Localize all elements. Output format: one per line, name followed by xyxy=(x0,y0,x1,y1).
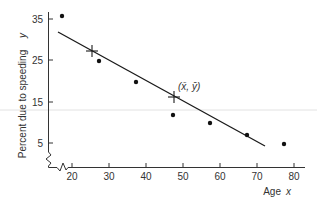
x-axis xyxy=(49,163,306,171)
regression-line xyxy=(58,32,265,146)
data-point xyxy=(60,14,64,18)
data-points xyxy=(60,14,286,146)
data-point xyxy=(134,80,138,84)
data-point xyxy=(171,113,175,117)
x-tick-label: 70 xyxy=(251,171,263,182)
mean-point-marker-icon xyxy=(168,91,180,103)
data-point xyxy=(282,142,286,146)
mean-point-label: (x̄, ȳ) xyxy=(178,81,200,92)
data-point xyxy=(245,133,249,137)
x-axis-variable: x xyxy=(285,186,292,197)
y-axis-break-icon xyxy=(46,152,51,168)
y-axis-title: Percent due to speeding xyxy=(17,50,28,158)
x-axis-title: Age xyxy=(263,186,281,197)
y-tick-label: 35 xyxy=(32,14,44,25)
line-point-marker-icon xyxy=(86,45,98,57)
y-axis-variable: y xyxy=(17,32,28,39)
scatter-chart: 35 25 15 5 20 30 40 50 60 70 80 Percent … xyxy=(0,0,317,201)
y-tick-label: 25 xyxy=(32,55,44,66)
x-tick-label: 30 xyxy=(103,171,115,182)
x-tick-label: 20 xyxy=(66,171,78,182)
x-axis-break-icon xyxy=(49,163,306,171)
x-tick-label: 50 xyxy=(177,171,189,182)
x-tick-label: 80 xyxy=(288,171,300,182)
y-tick-label: 15 xyxy=(32,97,44,108)
x-tick-label: 60 xyxy=(214,171,226,182)
y-axis xyxy=(46,12,53,168)
data-point xyxy=(208,121,212,125)
data-point xyxy=(97,59,101,63)
x-tick-label: 40 xyxy=(140,171,152,182)
y-tick-label: 5 xyxy=(37,138,43,149)
